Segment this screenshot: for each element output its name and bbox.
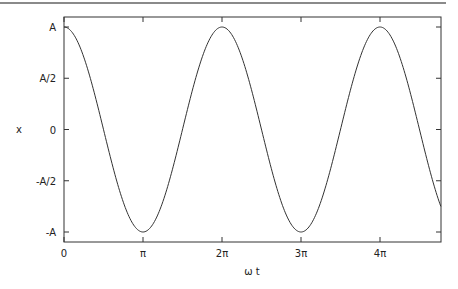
cosine-curve [64,27,441,232]
cosine-chart: AA/20-A/2-A 0π2π3π4π ω t x [0,0,458,289]
y-tick-label: A [49,22,56,33]
x-tick-label: 3π [295,248,307,259]
x-tick-label: π [140,248,146,259]
y-tick-label: 0 [50,125,56,136]
x-axis-label: ω t [244,266,260,277]
x-tick-label: 4π [374,248,386,259]
y-axis-label: x [16,124,22,135]
y-tick-label: -A/2 [36,176,56,187]
y-tick-label: A/2 [39,73,56,84]
x-tick-label: 0 [61,248,67,259]
plot-frame [64,17,441,242]
y-tick-label: -A [46,227,56,238]
x-axis-ticks: 0π2π3π4π [61,17,386,259]
y-axis-ticks: AA/20-A/2-A [36,22,441,238]
x-tick-label: 2π [216,248,228,259]
